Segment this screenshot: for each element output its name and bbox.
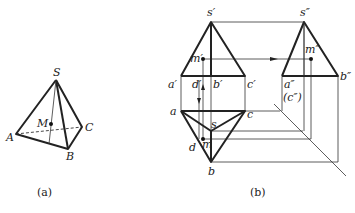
- front-view: [181, 22, 245, 76]
- arrow-right-icon: [270, 57, 278, 61]
- label-m-top: m: [202, 138, 212, 151]
- arrow-up-icon: [201, 84, 205, 90]
- hidden-edge-ac: [16, 127, 82, 134]
- label-c-double-prime: (c″): [283, 91, 302, 104]
- miter-line: [274, 104, 346, 176]
- caption-a: (a): [37, 186, 52, 199]
- pyramid-3d: [16, 80, 82, 149]
- label-A: A: [5, 131, 14, 144]
- label-b-double-prime: b″: [340, 70, 352, 83]
- label-c-top: c: [247, 108, 253, 121]
- label-a-prime: a′: [168, 78, 178, 91]
- label-b-top: b: [208, 165, 215, 178]
- label-C: C: [85, 121, 94, 134]
- label-m-prime: m′: [190, 52, 203, 65]
- label-b-prime: b′: [213, 78, 223, 91]
- label-M: M: [36, 117, 49, 130]
- label-d-prime: d′: [192, 78, 202, 91]
- label-c-prime: c′: [247, 78, 256, 91]
- point-m: [49, 122, 53, 126]
- label-a-top: a: [170, 105, 177, 118]
- caption-b: (b): [250, 186, 266, 199]
- label-m-double-prime: m″: [305, 43, 320, 56]
- pyramid-outline: [16, 80, 82, 149]
- label-s-double-prime: s″: [300, 6, 311, 19]
- point-m-double-prime: [309, 57, 313, 61]
- label-s-prime: s′: [207, 6, 216, 19]
- pyramid-projection-diagram: S M A B C (a): [0, 0, 355, 213]
- label-a-double-prime: a″: [284, 78, 296, 91]
- label-d-top: d: [189, 141, 196, 154]
- arrow-down-icon: [197, 98, 201, 104]
- label-s-top: s: [211, 118, 217, 131]
- label-S: S: [53, 66, 61, 79]
- label-B: B: [65, 150, 74, 163]
